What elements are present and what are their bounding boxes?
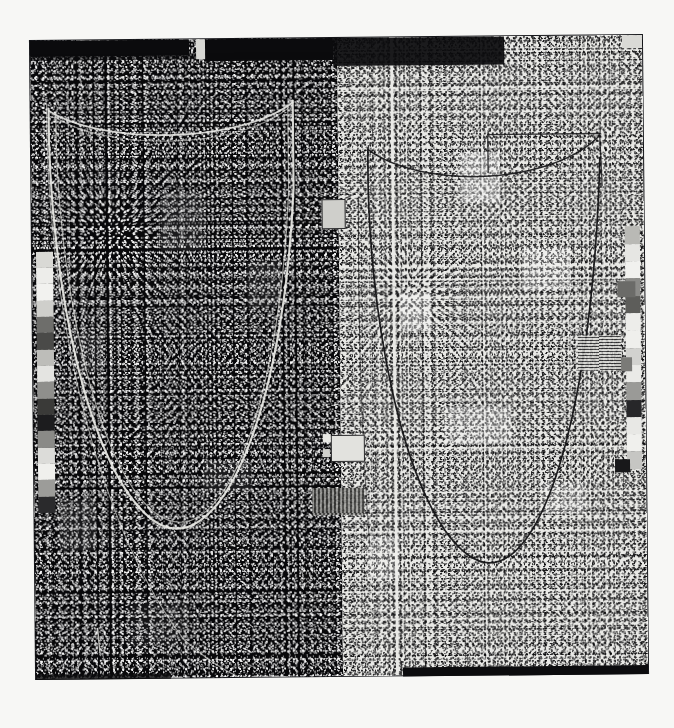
register-tab-upper-center	[196, 39, 205, 59]
wedge-step	[36, 251, 53, 268]
wedge-step	[36, 317, 53, 334]
wedge-step	[38, 480, 55, 497]
wedge-step	[36, 333, 53, 350]
artwork-format: two-panel diptych, photographic print / …	[0, 16, 1, 17]
wedge-step	[627, 434, 642, 451]
density-blotch	[543, 482, 586, 514]
left-panel-description: Dense white speckle grain over black gro…	[0, 16, 1, 17]
register-tab-mid-gutter	[322, 199, 346, 229]
density-blotch	[460, 151, 500, 202]
band-description: Dark horizontal masking bar running acro…	[0, 16, 1, 17]
left-panel	[30, 38, 343, 679]
density-blotch	[247, 262, 281, 307]
wedge-step	[37, 398, 54, 415]
wedge-step	[37, 349, 54, 366]
wedge-step	[37, 431, 54, 448]
register-dot-gutter	[323, 449, 330, 457]
striped-patch-gutter	[313, 488, 365, 515]
left-wedge-label: left edge density step wedge	[0, 16, 1, 17]
wedge-step	[36, 300, 53, 317]
wedge-step	[627, 382, 642, 399]
register-tab-right-upper	[617, 281, 636, 298]
wedge-step	[37, 366, 54, 383]
wedge-step	[626, 313, 641, 330]
register-tab-lower-gutter	[331, 435, 365, 463]
wedge-step	[626, 330, 641, 347]
wedge-step	[625, 244, 640, 261]
register-dot-gutter	[323, 434, 331, 443]
dot-grid-patch	[60, 620, 158, 662]
corner-tab-top-right	[622, 35, 642, 48]
density-blotch	[160, 192, 204, 250]
density-blotch	[366, 535, 400, 580]
wedge-step	[37, 382, 54, 399]
artwork-canvas: Untitled Diptych — High-Contrast Halfton…	[0, 0, 674, 728]
wedge-step	[38, 496, 55, 513]
wedge-step	[37, 415, 54, 432]
density-blotch	[401, 292, 432, 331]
grayscale-step-wedge-right	[625, 226, 642, 469]
density-blotch	[522, 246, 571, 291]
wedge-step	[36, 284, 53, 301]
page-title: Untitled Diptych — High-Contrast Halfton…	[0, 21, 1, 22]
density-blotch	[76, 334, 104, 373]
halftone-test-patch	[578, 335, 621, 370]
speckle-grain-left	[30, 38, 343, 679]
left-panel-curves	[30, 38, 343, 679]
wedge-step	[38, 447, 55, 464]
density-blotch	[203, 460, 252, 492]
baseline-bar-bottom-right	[403, 665, 648, 676]
scanned-plate	[30, 35, 648, 679]
right-wedge-label: right edge density step wedge	[0, 16, 1, 17]
wedge-step	[38, 464, 55, 481]
wedge-step	[625, 226, 640, 243]
speckle-grain-left-overlay	[30, 38, 343, 679]
grayscale-step-wedge-left	[36, 251, 56, 513]
baseline-bar-bottom-left	[36, 674, 171, 680]
density-blotch	[444, 406, 511, 445]
texture-note: soft rectangular tone patches visible th…	[0, 16, 1, 17]
wedge-step	[627, 417, 642, 434]
wedge-step	[627, 400, 642, 417]
right-panel-description: Dense black speckle grain over light gro…	[0, 16, 1, 17]
wedge-step	[625, 261, 640, 278]
wedge-step	[36, 268, 53, 285]
wedge-step	[626, 296, 641, 313]
register-tab-right-low	[615, 459, 630, 472]
density-blotch	[59, 500, 96, 551]
